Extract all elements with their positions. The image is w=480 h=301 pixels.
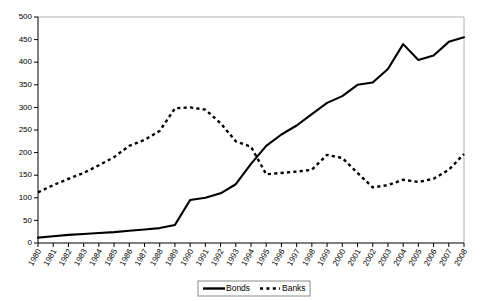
x-axis-label: 2003 bbox=[376, 247, 393, 267]
x-axis-label: 1993 bbox=[224, 247, 241, 267]
y-axis-label: 0 bbox=[28, 238, 33, 247]
x-axis-label: 2006 bbox=[422, 247, 439, 267]
x-axis-label: 1988 bbox=[148, 247, 165, 267]
x-axis-label: 2000 bbox=[331, 247, 348, 267]
y-axis-label: 250 bbox=[19, 125, 33, 134]
x-axis-label: 1984 bbox=[87, 247, 104, 267]
series-line-banks bbox=[38, 107, 464, 192]
y-axis-label: 200 bbox=[19, 148, 33, 157]
x-axis-label: 1996 bbox=[270, 247, 287, 267]
chart-legend: BondsBanks bbox=[198, 281, 310, 296]
x-axis-label: 1997 bbox=[285, 247, 302, 267]
x-axis-label: 2004 bbox=[392, 247, 409, 267]
x-axis-tick-group: 1980198119821983198419851986198719881989… bbox=[27, 243, 470, 267]
x-axis-label: 1986 bbox=[118, 247, 135, 267]
x-axis-label: 1981 bbox=[42, 247, 59, 267]
x-axis-label: 1980 bbox=[27, 247, 44, 267]
x-axis-label: 1998 bbox=[300, 247, 317, 267]
chart-container: 050100150200250300350400450500 198019811… bbox=[0, 0, 480, 301]
x-axis-label: 2007 bbox=[437, 247, 454, 267]
x-axis-label: 2001 bbox=[346, 247, 363, 267]
y-axis-tick-group: 050100150200250300350400450500 bbox=[19, 12, 38, 247]
legend-label-bonds: Bonds bbox=[226, 283, 250, 293]
x-axis-label: 1999 bbox=[316, 247, 333, 267]
x-axis-label: 1987 bbox=[133, 247, 150, 267]
x-axis-label: 1990 bbox=[179, 247, 196, 267]
x-axis-label: 1983 bbox=[72, 247, 89, 267]
series-layer bbox=[38, 37, 464, 237]
y-axis-label: 450 bbox=[19, 35, 33, 44]
x-axis-label: 1994 bbox=[240, 247, 257, 267]
x-axis-label: 1995 bbox=[255, 247, 272, 267]
series-line-bonds bbox=[38, 37, 464, 237]
y-axis-label: 150 bbox=[19, 170, 33, 179]
x-axis-label: 1989 bbox=[163, 247, 180, 267]
x-axis-label: 2008 bbox=[453, 247, 470, 267]
y-axis-label: 500 bbox=[19, 12, 33, 21]
x-axis-label: 1992 bbox=[209, 247, 226, 267]
legend-label-banks: Banks bbox=[282, 283, 306, 293]
x-axis-label: 2005 bbox=[407, 247, 424, 267]
x-axis-label: 2002 bbox=[361, 247, 378, 267]
x-axis-label: 1985 bbox=[103, 247, 120, 267]
y-axis-label: 100 bbox=[19, 193, 33, 202]
x-axis-label: 1991 bbox=[194, 247, 211, 267]
y-axis-label: 50 bbox=[23, 216, 32, 225]
y-axis-label: 300 bbox=[19, 103, 33, 112]
line-chart: 050100150200250300350400450500 198019811… bbox=[0, 0, 480, 301]
y-axis-label: 400 bbox=[19, 57, 33, 66]
y-axis-label: 350 bbox=[19, 80, 33, 89]
x-axis-label: 1982 bbox=[57, 247, 74, 267]
